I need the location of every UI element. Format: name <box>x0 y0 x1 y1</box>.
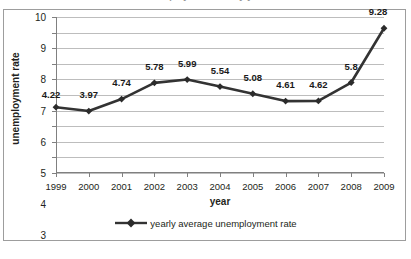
data-point-marker <box>184 76 191 83</box>
data-point-label: 4.74 <box>112 77 131 88</box>
y-axis-tick-label: 9 <box>40 43 46 54</box>
y-axis-tick-label: 6 <box>40 136 46 147</box>
x-axis-title: year <box>56 196 384 207</box>
data-point-label: 5.78 <box>145 61 164 72</box>
y-axis-tick-label: 3 <box>40 230 46 241</box>
legend-label: yearly average unemployment rate <box>150 218 296 229</box>
x-axis-tick-label: 2000 <box>78 181 99 192</box>
x-axis-tick-label: 1999 <box>45 181 66 192</box>
data-point-label: 5.8 <box>345 61 358 72</box>
data-point-marker <box>217 83 224 90</box>
y-axis-title: unemployment rate <box>8 28 22 168</box>
y-axis-tick-label: 7 <box>40 105 46 116</box>
data-point-marker <box>53 104 60 111</box>
x-axis-tick-label: 2004 <box>209 181 230 192</box>
data-point-label: 5.99 <box>178 58 197 69</box>
y-axis-tick-label: 5 <box>40 168 46 179</box>
x-axis-tick-label: 2009 <box>373 181 394 192</box>
data-point-marker <box>249 90 256 97</box>
chart-legend: yearly average unemployment rate <box>4 217 407 229</box>
data-point-label: 3.97 <box>80 89 99 100</box>
y-axis-tick-label: 4 <box>40 199 46 210</box>
line-diamond-marker-icon <box>114 217 148 229</box>
chart-frame: unemployment rate 012345678910 199920002… <box>3 9 406 241</box>
y-axis-tick-label: 10 <box>35 12 46 23</box>
data-point-label: 4.22 <box>42 89 61 100</box>
x-axis-tick-label: 2007 <box>308 181 329 192</box>
x-axis-tick-label: 2002 <box>144 181 165 192</box>
data-point-label: 4.61 <box>276 79 295 90</box>
plot-area: 012345678910 199920002001200220032004200… <box>56 17 384 173</box>
data-point-label: 5.54 <box>211 65 230 76</box>
data-point-label: 5.08 <box>244 72 263 83</box>
data-point-label: 9.28 <box>369 6 388 17</box>
data-point-label: 4.62 <box>309 79 328 90</box>
x-axis-tick-label: 2003 <box>177 181 198 192</box>
x-axis-tick <box>384 173 385 177</box>
series-line-yearly-average-unemployment-rate <box>56 17 384 174</box>
y-axis-title-label: unemployment rate <box>10 52 21 144</box>
x-axis-tick-label: 2008 <box>341 181 362 192</box>
x-axis-tick-label: 2001 <box>111 181 132 192</box>
data-point-marker <box>85 108 92 115</box>
data-point-marker <box>282 98 289 105</box>
clipped-chart-title: unemployment rate by year <box>0 0 411 2</box>
x-axis-tick-label: 2006 <box>275 181 296 192</box>
y-axis-tick-label: 8 <box>40 74 46 85</box>
x-axis-tick-label: 2005 <box>242 181 263 192</box>
